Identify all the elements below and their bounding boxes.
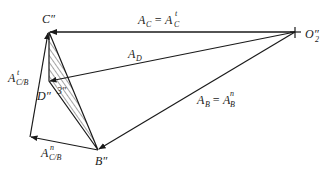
svg-text:= A: = A [154,13,173,27]
label-d: D″ [36,89,52,103]
svg-text:t: t [175,9,178,18]
svg-text:A: A [127,47,136,61]
svg-text:t: t [17,68,20,77]
svg-text:n: n [230,89,234,98]
svg-text:2: 2 [315,35,319,44]
svg-text:A: A [7,71,16,85]
label-link-3: 3″ [56,85,67,96]
vector-acb-tangential [30,33,48,137]
acceleration-polygon-diagram: C″ D″ B″ 3″ O″ 2 A C = A C t A D A B = A… [0,0,330,171]
label-ac: A C = A C t [137,9,180,29]
svg-text:n: n [50,143,54,152]
svg-text:A: A [40,146,49,160]
svg-text:C: C [174,20,180,29]
label-ad: A D [127,47,142,63]
svg-text:C: C [146,20,152,29]
label-ab: A B = A B n [196,89,235,109]
label-c: C″ [42,12,56,26]
vector-ad [50,32,295,81]
pole-cross-icon [290,27,301,38]
svg-text:A: A [196,93,205,107]
label-acb-tangential: A C/B t [7,68,29,87]
label-b: B″ [95,154,108,168]
svg-text:B: B [230,100,235,109]
label-acb-normal: A C/B n [40,143,62,162]
svg-text:= A: = A [212,93,231,107]
svg-text:C/B: C/B [16,78,29,87]
svg-text:B: B [205,100,210,109]
svg-text:D: D [135,54,142,63]
label-o2: O″ 2 [305,27,320,44]
svg-text:A: A [137,13,146,27]
svg-text:C/B: C/B [49,153,62,162]
